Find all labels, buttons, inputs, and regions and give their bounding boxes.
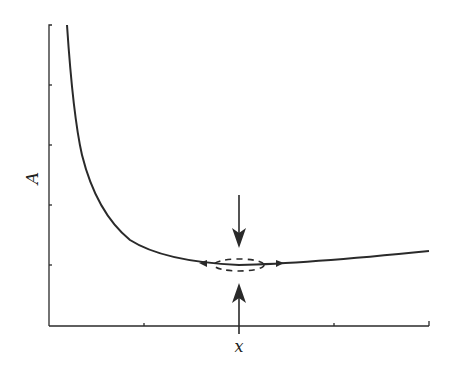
axes: [49, 25, 429, 326]
diagram-canvas: A x: [0, 0, 451, 369]
y-axis: [49, 25, 52, 326]
curve-arrowhead-right-icon: [276, 260, 284, 267]
curve-A: [67, 25, 429, 265]
x-axis-label: x: [234, 337, 243, 356]
down-arrow-icon: [232, 195, 246, 248]
y-axis-label: A: [22, 172, 42, 186]
